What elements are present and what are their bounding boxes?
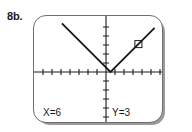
calculator-screen: X=6 Y=3 — [33, 15, 163, 123]
trace-x-readout: X=6 — [43, 108, 61, 118]
problem-label: 8b. — [7, 11, 22, 22]
trace-y-readout: Y=3 — [112, 108, 130, 118]
figure-container: 8b. X=6 Y=3 — [0, 0, 192, 132]
